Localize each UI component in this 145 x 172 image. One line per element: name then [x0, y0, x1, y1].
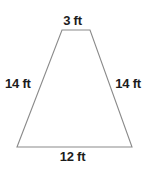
- bottom-base-label: 12 ft: [0, 150, 145, 164]
- top-base-label: 3 ft: [0, 14, 145, 28]
- geometry-figure: 3 ft 14 ft 14 ft 12 ft: [0, 0, 145, 172]
- left-leg-label: 14 ft: [5, 77, 31, 91]
- right-leg-label: 14 ft: [115, 77, 141, 91]
